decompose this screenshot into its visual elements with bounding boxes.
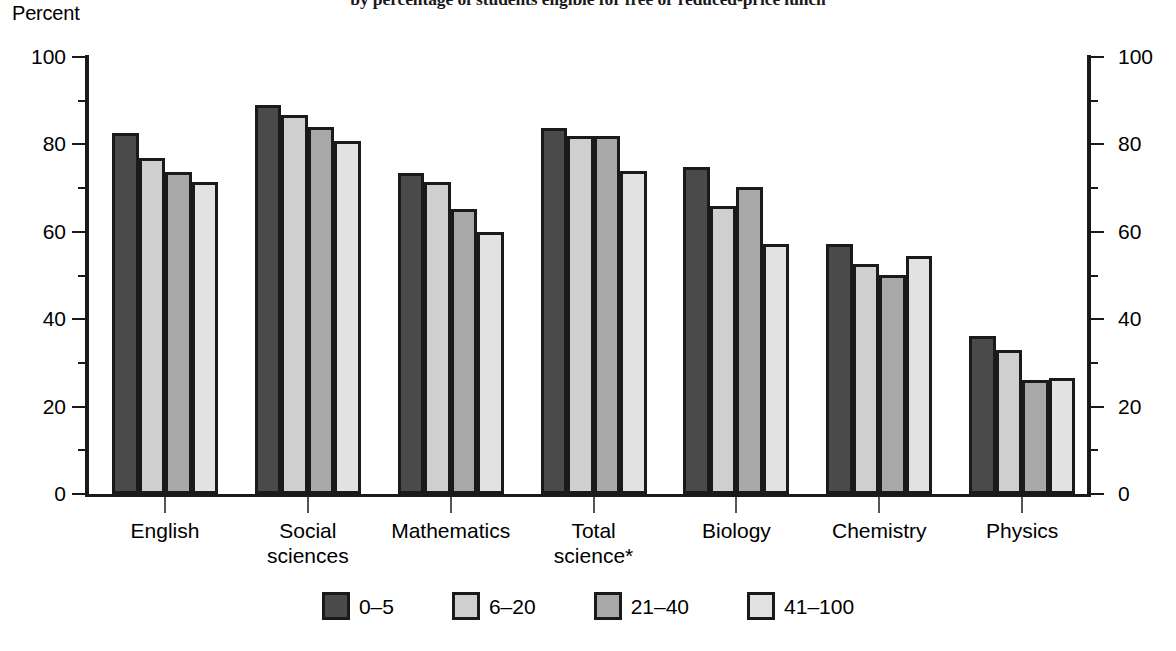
major-tick-left-20 (72, 406, 86, 408)
legend-item[interactable]: 0–5 (322, 592, 394, 620)
minor-tick-right-10 (1090, 449, 1098, 451)
y-tick-label-right-80: 80 (1118, 133, 1141, 154)
bar (112, 133, 139, 494)
legend-swatch-icon (747, 592, 775, 620)
bar (736, 187, 763, 494)
minor-tick-left-30 (78, 362, 86, 364)
bar-group (112, 57, 218, 494)
bar (906, 256, 933, 494)
major-tick-right-40 (1090, 318, 1104, 320)
legend-label: 6–20 (489, 596, 536, 617)
minor-tick-right-70 (1090, 187, 1098, 189)
bar (451, 209, 478, 494)
major-tick-left-0 (72, 493, 86, 495)
x-axis-line (85, 494, 1091, 497)
bar (424, 182, 451, 494)
major-tick-left-100 (72, 56, 86, 58)
x-tick (593, 497, 595, 513)
legend-label: 0–5 (359, 596, 394, 617)
y-tick-label-left-40: 40 (43, 308, 66, 329)
bar (826, 244, 853, 494)
y-tick-label-right-40: 40 (1118, 308, 1141, 329)
minor-tick-right-90 (1090, 100, 1098, 102)
bar (683, 167, 710, 494)
major-tick-right-60 (1090, 231, 1104, 233)
bar-group (969, 57, 1075, 494)
y-tick-label-left-100: 100 (31, 46, 66, 67)
major-tick-left-80 (72, 143, 86, 145)
x-tick (450, 497, 452, 513)
y-tick-label-right-20: 20 (1118, 396, 1141, 417)
bar-group (541, 57, 647, 494)
bar (1022, 380, 1049, 494)
bar (879, 275, 906, 494)
y-tick-label-right-60: 60 (1118, 221, 1141, 242)
minor-tick-left-70 (78, 187, 86, 189)
bar-group (826, 57, 932, 494)
y-tick-label-right-100: 100 (1118, 46, 1153, 67)
bar-group (255, 57, 361, 494)
y-tick-label-left-0: 0 (54, 483, 66, 504)
bar (969, 336, 996, 494)
x-tick (307, 497, 309, 513)
bar (1049, 378, 1076, 494)
bar (996, 350, 1023, 494)
major-tick-left-60 (72, 231, 86, 233)
legend-item[interactable]: 6–20 (452, 592, 536, 620)
plot-area: 002020404060608080100100 EnglishSocial s… (88, 57, 1088, 494)
minor-tick-left-90 (78, 100, 86, 102)
bar (165, 172, 192, 494)
bar (853, 264, 880, 494)
bar (541, 128, 568, 494)
bar (334, 141, 361, 494)
x-tick (878, 497, 880, 513)
legend-item[interactable]: 21–40 (594, 592, 689, 620)
chart-title: by percentage of students eligible for f… (0, 0, 1176, 10)
major-tick-right-80 (1090, 143, 1104, 145)
bar (255, 105, 282, 494)
y-tick-label-left-60: 60 (43, 221, 66, 242)
minor-tick-right-50 (1090, 275, 1098, 277)
x-tick (1021, 497, 1023, 513)
bar (477, 232, 504, 494)
bar (567, 136, 594, 494)
bar (139, 158, 166, 494)
legend-label: 41–100 (784, 596, 854, 617)
bar (710, 206, 737, 494)
bar (620, 171, 647, 494)
y-tick-label-left-20: 20 (43, 396, 66, 417)
x-tick (164, 497, 166, 513)
legend-swatch-icon (452, 592, 480, 620)
major-tick-right-20 (1090, 406, 1104, 408)
y-tick-label-left-80: 80 (43, 133, 66, 154)
legend-label: 21–40 (631, 596, 689, 617)
minor-tick-left-50 (78, 275, 86, 277)
legend-item[interactable]: 41–100 (747, 592, 854, 620)
bar (763, 244, 790, 494)
bar (594, 136, 621, 494)
bar (281, 115, 308, 494)
bar (192, 182, 219, 494)
legend-swatch-icon (322, 592, 350, 620)
minor-tick-right-30 (1090, 362, 1098, 364)
chart-figure: by percentage of students eligible for f… (0, 0, 1176, 651)
x-tick (735, 497, 737, 513)
bar-group (683, 57, 789, 494)
x-tick-label: Physics (932, 519, 1112, 544)
minor-tick-left-10 (78, 449, 86, 451)
major-tick-left-40 (72, 318, 86, 320)
bar (398, 173, 425, 494)
major-tick-right-100 (1090, 56, 1104, 58)
y-axis-title: Percent (12, 2, 80, 25)
bar-group (398, 57, 504, 494)
chart-legend: 0–56–2021–4041–100 (0, 592, 1176, 620)
major-tick-right-0 (1090, 493, 1104, 495)
bar (308, 127, 335, 494)
y-tick-label-right-0: 0 (1118, 483, 1130, 504)
legend-swatch-icon (594, 592, 622, 620)
